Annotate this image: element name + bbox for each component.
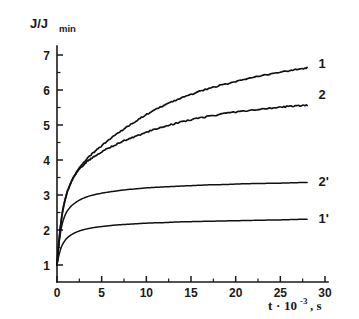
y-tick-label: 2 <box>43 224 50 238</box>
x-tick-label: 15 <box>184 286 198 300</box>
data-curves-group <box>57 67 307 265</box>
data-curve-1 <box>57 67 307 265</box>
y-tick-label: 6 <box>43 84 50 98</box>
x-tick-label: 20 <box>229 286 243 300</box>
y-tick-label: 1 <box>43 259 50 273</box>
y-tick-label: 5 <box>43 119 50 133</box>
x-axis-title-unit: , s <box>310 298 322 313</box>
x-axis-title-exponent: -3 <box>300 296 308 306</box>
curve-label-2: 2 <box>318 87 325 102</box>
x-tick-label: 0 <box>54 286 61 300</box>
y-tick-label: 7 <box>43 49 50 63</box>
plot-area: 0510152025301234567 122'1' J/J min t · 1… <box>0 0 359 319</box>
y-axis-title-main: J/J <box>30 16 48 31</box>
x-axis-title-base10: 10 <box>284 298 297 313</box>
data-curve-1-prime <box>57 219 307 265</box>
x-axis-title: t · 10 -3 , s <box>268 296 322 313</box>
y-axis-title-subscript: min <box>59 23 76 34</box>
curve-label-1-prime: 1' <box>318 211 328 226</box>
x-axis-title-dot: · <box>276 298 280 313</box>
tick-labels-group: 0510152025301234567 <box>43 49 332 301</box>
y-tick-label: 3 <box>43 189 50 203</box>
x-axis-title-variable: t <box>268 298 273 313</box>
curve-labels-group: 122'1' <box>318 56 328 226</box>
y-axis-title: J/J min <box>30 16 76 34</box>
x-tick-label: 10 <box>140 286 154 300</box>
x-tick-label: 5 <box>98 286 105 300</box>
chart-figure: 0510152025301234567 122'1' J/J min t · 1… <box>0 0 359 319</box>
curve-label-2-prime: 2' <box>318 174 328 189</box>
ticks-group <box>57 55 325 282</box>
data-curve-2 <box>57 105 307 265</box>
data-curve-2-prime <box>57 182 307 265</box>
axes-group <box>57 46 328 282</box>
y-tick-label: 4 <box>43 154 50 168</box>
curve-label-1: 1 <box>318 56 325 71</box>
